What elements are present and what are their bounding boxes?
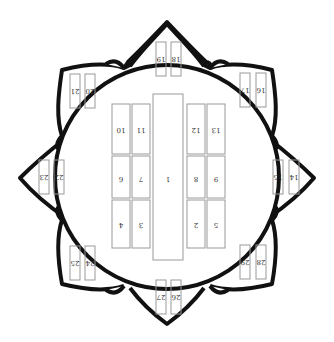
label-6: 6	[118, 175, 123, 183]
label-8: 8	[194, 175, 198, 183]
label-4: 4	[118, 221, 123, 229]
label-16: 16	[256, 86, 265, 94]
label-13: 13	[212, 126, 221, 134]
label-10: 10	[117, 126, 126, 134]
label-18: 18	[172, 55, 181, 63]
petal-bottom-shape	[130, 288, 204, 324]
label-24: 24	[85, 259, 94, 267]
label-2: 2	[194, 221, 198, 229]
label-9: 9	[214, 175, 218, 183]
label-26: 26	[171, 293, 180, 301]
label-20: 20	[86, 87, 95, 95]
label-27: 27	[157, 293, 166, 301]
label-28: 28	[257, 258, 266, 266]
label-1: 1	[166, 175, 170, 183]
label-12: 12	[192, 126, 201, 134]
label-7: 7	[139, 175, 143, 183]
label-5: 5	[214, 221, 218, 229]
label-3: 3	[139, 221, 143, 229]
label-29: 29	[241, 258, 250, 266]
label-11: 11	[137, 126, 146, 134]
label-23: 23	[40, 173, 49, 181]
lotus-diagram: 1 10 11 12 13 6 7 8 9 4 3 2 5 19 18 17 1…	[0, 0, 334, 342]
label-19: 19	[157, 55, 166, 63]
label-21: 21	[71, 87, 80, 95]
label-25: 25	[71, 259, 80, 267]
label-22: 22	[55, 173, 64, 181]
label-17: 17	[241, 86, 250, 94]
petal-top-shape	[130, 24, 204, 66]
label-14: 14	[289, 173, 298, 181]
label-15: 15	[274, 173, 283, 181]
